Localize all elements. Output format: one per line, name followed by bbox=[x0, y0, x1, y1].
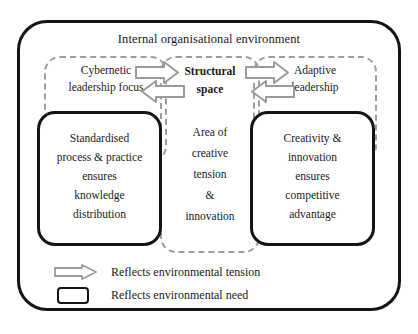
center-line-0: Area of bbox=[160, 122, 260, 143]
arrow-left-icon bbox=[252, 81, 294, 102]
left-tension-arrows bbox=[134, 58, 186, 104]
legend-arrow-glyph-icon bbox=[54, 264, 98, 280]
arrow-right-icon bbox=[136, 62, 178, 83]
arrow-left-icon bbox=[142, 81, 184, 102]
rounded-rectangle-icon bbox=[54, 286, 100, 304]
left-tension-arrow-pair-icon bbox=[134, 58, 186, 104]
environment-title: Internal organisational environment bbox=[17, 32, 401, 47]
creativity-innovation-text: Creativity & innovation ensures competit… bbox=[253, 129, 372, 224]
right-tension-arrow-pair-icon bbox=[244, 58, 296, 104]
creativity-line-0: Creativity & bbox=[253, 129, 372, 148]
standardised-line-0: Standardised bbox=[40, 129, 159, 148]
arrow-right-icon bbox=[246, 62, 288, 83]
figure-canvas: Internal organisational environment Cybe… bbox=[0, 0, 418, 334]
center-line-4: innovation bbox=[160, 206, 260, 227]
legend-item-need: Reflects environmental need bbox=[54, 285, 260, 305]
standardised-line-2: ensures bbox=[40, 167, 159, 186]
block-arrow-icon bbox=[54, 263, 100, 281]
right-tension-arrows bbox=[244, 58, 296, 104]
creativity-line-4: advantage bbox=[253, 205, 372, 224]
standardised-line-3: knowledge bbox=[40, 186, 159, 205]
legend-need-glyph-icon bbox=[57, 287, 89, 304]
center-line-2: tension bbox=[160, 164, 260, 185]
center-line-1: creative bbox=[160, 143, 260, 164]
standardised-process-box: Standardised process & practice ensures … bbox=[37, 111, 162, 246]
center-line-3: & bbox=[160, 185, 260, 206]
legend-label-need: Reflects environmental need bbox=[111, 288, 248, 303]
creativity-innovation-box: Creativity & innovation ensures competit… bbox=[250, 111, 375, 246]
legend: Reflects environmental tension Reflects … bbox=[54, 262, 260, 308]
standardised-process-text: Standardised process & practice ensures … bbox=[40, 129, 159, 224]
legend-item-tension: Reflects environmental tension bbox=[54, 262, 260, 282]
standardised-line-4: distribution bbox=[40, 205, 159, 224]
creativity-line-2: ensures bbox=[253, 167, 372, 186]
standardised-line-1: process & practice bbox=[40, 148, 159, 167]
creativity-line-1: innovation bbox=[253, 148, 372, 167]
structural-space-body-text: Area of creative tension & innovation bbox=[160, 122, 260, 227]
legend-label-tension: Reflects environmental tension bbox=[111, 265, 260, 280]
creativity-line-3: competitive bbox=[253, 186, 372, 205]
